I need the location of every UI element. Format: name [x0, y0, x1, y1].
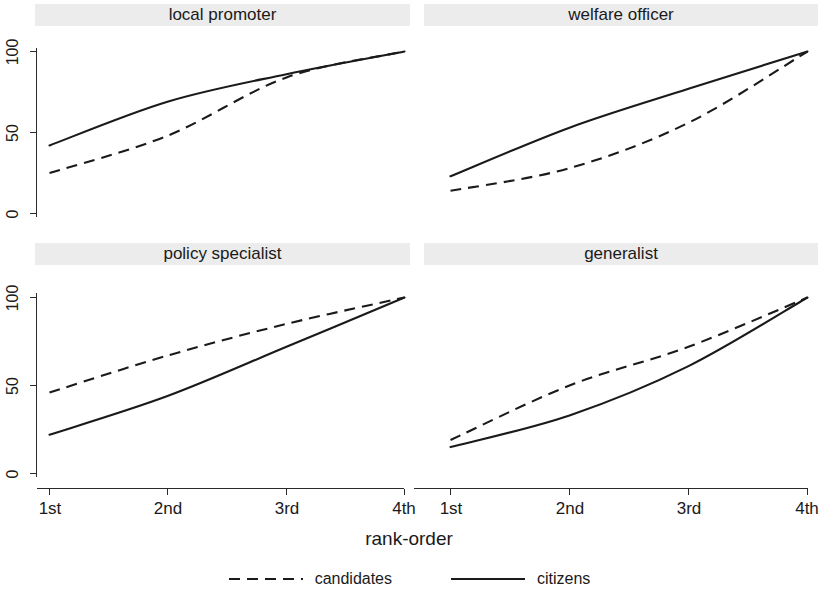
x-axis-policy-specialist [37, 489, 405, 496]
plot-area-welfare-officer [410, 4, 818, 236]
legend-item-citizens: citizens [450, 570, 590, 588]
ytick-label-50-top-left: 50 [5, 116, 21, 150]
panel-generalist: generalist 1st 2nd 3rd 4th [410, 243, 818, 520]
series-policy-specialist [50, 298, 405, 435]
xtick-label-2nd-right: 2nd [547, 499, 593, 519]
series-citizens-local-promoter [50, 52, 405, 146]
xtick-label-2nd-left: 2nd [145, 499, 191, 519]
ytick-label-100-bottom-left: 100 [5, 281, 21, 315]
series-generalist [451, 298, 808, 448]
panel-local-promoter: local promoter 100 50 0 [0, 4, 410, 236]
plot-area-policy-specialist [0, 243, 410, 520]
legend-key-dashed-icon [228, 573, 304, 585]
legend-key-solid-icon [450, 573, 526, 585]
series-local-promoter [50, 52, 405, 174]
panel-policy-specialist: policy specialist [0, 243, 410, 520]
series-welfare-officer [451, 52, 808, 191]
series-candidates-policy-specialist [50, 298, 405, 393]
panel-grid: local promoter 100 50 0 welfare officer [0, 0, 818, 520]
series-candidates-local-promoter [50, 52, 405, 174]
xtick-label-4th-right: 4th [784, 499, 823, 519]
xtick-label-3rd-right: 3rd [666, 499, 712, 519]
y-axis-local-promoter [30, 48, 37, 217]
plot-area-local-promoter [0, 4, 410, 236]
x-axis-title: rank-order [0, 528, 818, 550]
panel-welfare-officer: welfare officer [410, 4, 818, 236]
ytick-label-0-bottom-left: 0 [5, 457, 21, 491]
xtick-label-1st-left: 1st [27, 499, 73, 519]
legend-label-candidates: candidates [315, 570, 392, 588]
xtick-label-3rd-left: 3rd [264, 499, 310, 519]
xtick-label-1st-right: 1st [428, 499, 474, 519]
legend-label-citizens: citizens [537, 570, 590, 588]
ytick-label-0-top-left: 0 [5, 197, 21, 231]
series-citizens-policy-specialist [50, 298, 405, 435]
series-candidates-welfare-officer [451, 52, 808, 191]
ytick-label-50-bottom-left: 50 [5, 369, 21, 403]
y-axis-policy-specialist [30, 293, 37, 477]
series-citizens-welfare-officer [451, 52, 808, 177]
plot-area-generalist [410, 243, 818, 520]
chart-legend: candidates citizens [0, 566, 818, 592]
series-candidates-generalist [451, 298, 808, 441]
x-axis-generalist [414, 489, 808, 496]
ytick-label-100-top-left: 100 [5, 35, 21, 69]
legend-item-candidates: candidates [228, 570, 392, 588]
